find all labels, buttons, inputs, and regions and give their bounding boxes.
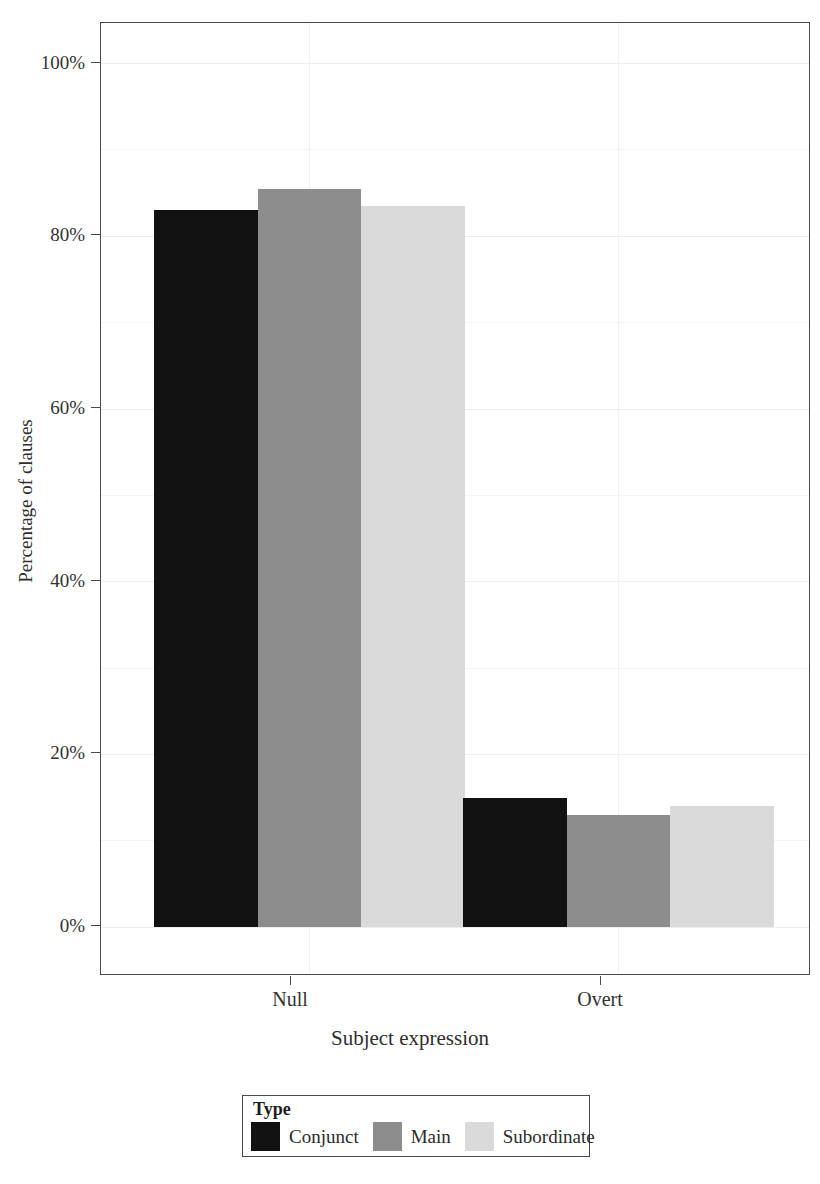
legend-box: Type Conjunct Main Subordinate [242, 1095, 590, 1157]
y-tick-label-100: 100% [0, 53, 85, 72]
y-tick-label-20: 20% [0, 743, 85, 762]
y-tick-label-40: 40% [0, 571, 85, 590]
legend-items: Conjunct Main Subordinate [251, 1122, 609, 1151]
bar-null-subordinate[interactable] [361, 206, 465, 927]
y-axis-title: Percentage of clauses [15, 371, 37, 631]
y-tick-mark-60 [91, 407, 100, 408]
y-tick-mark-20 [91, 752, 100, 753]
gridline-0 [101, 927, 809, 928]
bar-null-main[interactable] [258, 189, 361, 927]
bar-null-conjunct[interactable] [154, 210, 258, 927]
y-tick-label-0: 0% [0, 916, 85, 935]
legend-label-conjunct: Conjunct [289, 1126, 359, 1148]
y-tick-mark-100 [91, 62, 100, 63]
bar-overt-subordinate[interactable] [670, 806, 774, 927]
y-tick-mark-80 [91, 234, 100, 235]
x-tick-label-null: Null [210, 988, 370, 1010]
legend-label-main: Main [411, 1126, 451, 1148]
y-tick-label-80: 80% [0, 225, 85, 244]
bar-chart-figure: 100% 80% 60% 40% 20% 0% Null Overt Subje… [0, 0, 820, 1184]
legend-item-subordinate[interactable]: Subordinate [465, 1122, 595, 1151]
legend-title: Type [253, 1099, 291, 1120]
y-tick-mark-40 [91, 580, 100, 581]
legend-swatch-subordinate-icon [465, 1122, 494, 1151]
y-tick-mark-0 [91, 925, 100, 926]
bar-overt-main[interactable] [567, 815, 670, 927]
x-tick-label-overt: Overt [520, 988, 680, 1010]
x-axis-title: Subject expression [0, 1026, 820, 1051]
gridline-minor-90 [101, 149, 809, 150]
legend-swatch-main-icon [373, 1122, 402, 1151]
x-tick-mark-null [290, 976, 291, 985]
legend-item-conjunct[interactable]: Conjunct [251, 1122, 359, 1151]
bar-overt-conjunct[interactable] [463, 798, 567, 927]
legend-label-subordinate: Subordinate [503, 1126, 595, 1148]
x-tick-mark-overt [600, 976, 601, 985]
legend-item-main[interactable]: Main [373, 1122, 451, 1151]
gridline-100 [101, 63, 809, 64]
y-tick-label-60: 60% [0, 398, 85, 417]
plot-panel [100, 22, 810, 975]
legend-swatch-conjunct-icon [251, 1122, 280, 1151]
